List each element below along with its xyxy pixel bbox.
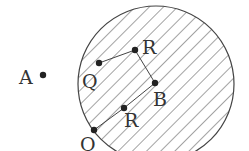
- point-label: R: [142, 36, 157, 58]
- point-label: Q: [80, 133, 96, 151]
- point-dot: [152, 80, 158, 86]
- point-dot: [96, 60, 102, 66]
- point-r2: R: [121, 105, 139, 131]
- point-q2: Q: [80, 127, 97, 151]
- diagram-canvas: AQRBRQ: [0, 0, 249, 151]
- hatched-disk: [78, 6, 234, 151]
- point-label: R: [124, 109, 139, 131]
- point-dot: [40, 72, 46, 78]
- point-label: A: [18, 66, 33, 88]
- point-dot: [132, 47, 138, 53]
- point-label: Q: [82, 70, 98, 92]
- point-a: A: [18, 66, 46, 88]
- point-label: B: [153, 88, 167, 110]
